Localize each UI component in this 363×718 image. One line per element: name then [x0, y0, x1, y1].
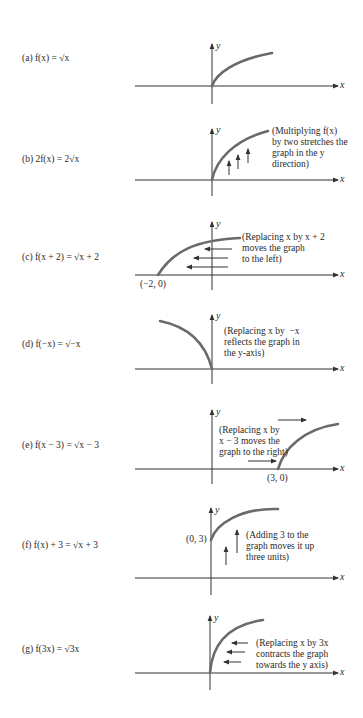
panel-f-note: (Adding 3 to the graph moves it up three…: [246, 530, 314, 563]
panel-a-plot: [135, 44, 338, 104]
panel-g-x-label: x: [340, 666, 344, 677]
panel-c-x-label: x: [340, 268, 344, 279]
panel-g-note: (Replacing x by 3x contracts the graph t…: [256, 638, 329, 671]
panel-e-y-label: y: [216, 406, 220, 417]
panel-d-note: (Replacing x by −x reflects the graph in…: [224, 326, 300, 359]
panel-d-x-label: x: [340, 362, 344, 373]
panel-a-x-label: x: [340, 79, 344, 90]
panel-f-y-label: y: [215, 504, 219, 515]
panel-b-note: (Multiplying f(x) by two stretches the g…: [272, 126, 348, 170]
transformation-plots: [0, 0, 363, 718]
panel-f-x-label: x: [340, 571, 344, 582]
panel-g-y-label: y: [214, 612, 218, 623]
panel-c-note: (Replacing x by x + 2 moves the graph to…: [242, 232, 325, 265]
panel-c-point-label: (−2, 0): [140, 279, 166, 289]
panel-d-y-label: y: [216, 310, 220, 321]
panel-a-y-label: y: [216, 40, 220, 51]
panel-e-note: (Replacing x by x − 3 moves the graph to…: [219, 425, 288, 458]
panel-f-point-label: (0, 3): [186, 534, 207, 544]
panel-e-x-label: x: [340, 462, 344, 473]
panel-c-y-label: y: [216, 218, 220, 229]
panel-b-y-label: y: [216, 124, 220, 135]
panel-e-point-label: (3, 0): [267, 473, 288, 483]
panel-b-x-label: x: [340, 173, 344, 184]
